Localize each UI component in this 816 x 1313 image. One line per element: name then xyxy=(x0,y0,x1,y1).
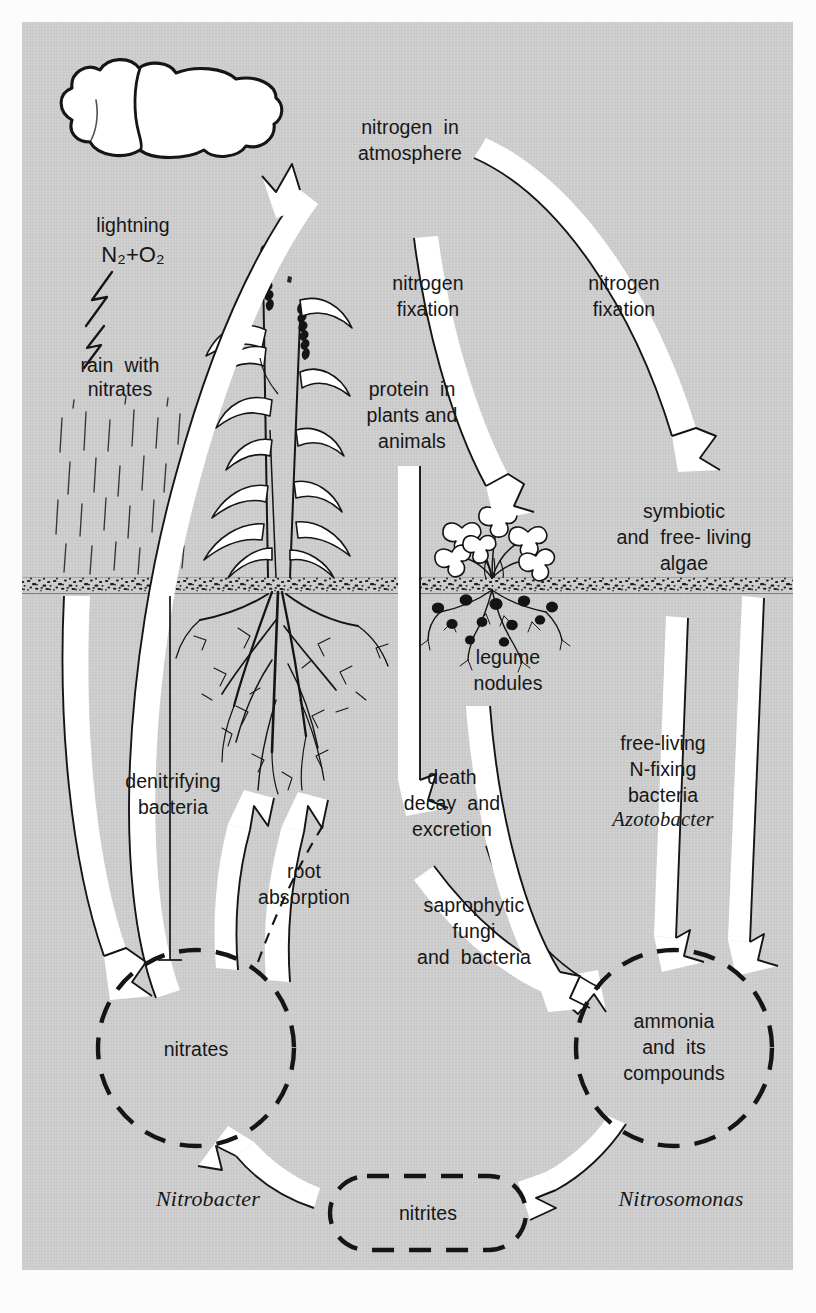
label-fixation-right-line2: fixation xyxy=(548,298,700,321)
label-fixation-left-line2: fixation xyxy=(352,298,504,321)
label-symbiotic-line1: symbiotic xyxy=(576,500,792,523)
label-denitrifying-line2: bacteria xyxy=(82,796,264,819)
label-nitrosomonas: Nitrosomonas xyxy=(566,1186,796,1212)
label-death-line3: excretion xyxy=(358,818,546,841)
label-freeliving-line1: free-living xyxy=(574,732,752,755)
label-ammonia-line2: and its xyxy=(584,1036,764,1059)
label-atmosphere-line1: nitrogen in xyxy=(312,116,508,139)
label-atmosphere-line2: atmosphere xyxy=(312,142,508,165)
legume-leaf xyxy=(519,549,554,581)
arrow-protein-to-death-decay xyxy=(398,466,448,816)
label-root-absorption-line1: root xyxy=(222,860,386,883)
label-rain-nitrates: nitrates xyxy=(40,378,200,401)
label-nitrates-pool: nitrates xyxy=(116,1038,276,1061)
label-ammonia-line1: ammonia xyxy=(584,1010,764,1033)
label-root-absorption-line2: absorption xyxy=(222,886,386,909)
nitrogen-cycle-artwork xyxy=(0,0,816,1313)
label-lightning: lightning xyxy=(58,214,208,237)
label-legume-line1: legume xyxy=(432,646,584,669)
grass-root-system xyxy=(176,592,388,794)
label-protein-line3: animals xyxy=(322,430,502,453)
label-legume-line2: nodules xyxy=(432,672,584,695)
diagram-stage: lightning N₂+O₂ rain with nitrates nitro… xyxy=(0,0,816,1313)
label-saprophytic-line1: saprophytic xyxy=(380,894,568,917)
label-death-line2: decay and xyxy=(358,792,546,815)
label-saprophytic-line2: fungi xyxy=(380,920,568,943)
label-saprophytic-line3: and bacteria xyxy=(380,946,568,969)
label-symbiotic-line3: algae xyxy=(576,552,792,575)
root-nodules xyxy=(432,594,558,647)
label-death-line1: death xyxy=(358,766,546,789)
label-rain-with: rain with xyxy=(40,354,200,377)
label-nitrites-pool: nitrites xyxy=(348,1202,508,1225)
label-freeliving-line3: bacteria xyxy=(574,784,752,807)
label-protein-line2: plants and xyxy=(322,404,502,427)
label-symbiotic-line2: and free- living xyxy=(576,526,792,549)
label-nitrobacter: Nitrobacter xyxy=(106,1186,310,1212)
label-denitrifying-line1: denitrifying xyxy=(82,770,264,793)
label-azotobacter: Azotobacter xyxy=(574,808,752,831)
label-protein-line1: protein in xyxy=(322,378,502,401)
label-lightning-formula: N₂+O₂ xyxy=(58,242,208,268)
label-fixation-right-line1: nitrogen xyxy=(548,272,700,295)
cloud-illustration xyxy=(61,60,282,158)
label-ammonia-line3: compounds xyxy=(584,1062,764,1085)
label-fixation-left-line1: nitrogen xyxy=(352,272,504,295)
label-freeliving-line2: N-fixing xyxy=(574,758,752,781)
